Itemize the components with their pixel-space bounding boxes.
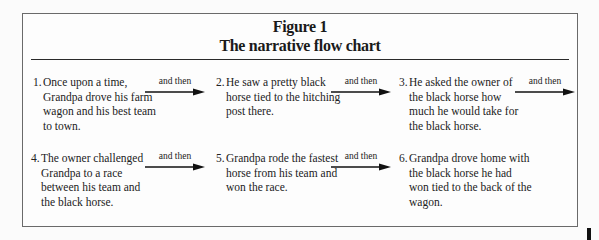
step-2: 2. He saw a pretty black horse tied to t… xyxy=(216,75,341,119)
step-3: 3. He asked the owner of the black horse… xyxy=(399,75,524,133)
title-divider xyxy=(31,59,569,60)
step-number: 6. xyxy=(399,151,408,166)
step-6: 6. Grandpa drove home with the black hor… xyxy=(399,151,534,209)
step-number: 5. xyxy=(216,151,225,166)
right-arrow-icon xyxy=(331,163,391,171)
step-number: 3. xyxy=(399,75,408,90)
right-arrow-icon xyxy=(331,88,391,96)
arrow-label: and then xyxy=(145,76,205,87)
figure-label: Figure 1 xyxy=(23,17,577,36)
right-arrow-icon xyxy=(145,163,205,171)
right-arrow-icon xyxy=(145,88,205,96)
page-edge-mark xyxy=(587,228,591,240)
arrow-1-to-2: and then xyxy=(145,76,205,98)
step-5: 5. Grandpa rode the fastest horse from h… xyxy=(216,151,341,195)
arrow-label: and then xyxy=(515,76,575,87)
step-4: 4. The owner challenged Grandpa to a rac… xyxy=(31,151,156,209)
step-number: 1. xyxy=(33,75,42,90)
step-text: He asked the owner of the black horse ho… xyxy=(399,75,524,133)
arrow-4-to-5: and then xyxy=(145,151,205,173)
right-arrow-icon xyxy=(515,88,575,96)
arrow-label: and then xyxy=(331,76,391,87)
step-text: He saw a pretty black horse tied to the … xyxy=(216,75,341,119)
arrow-3-to-4: and then xyxy=(515,76,575,98)
step-text: Grandpa drove home with the black horse … xyxy=(399,151,534,209)
arrow-label: and then xyxy=(145,151,205,162)
step-1: 1. Once upon a time, Grandpa drove his f… xyxy=(33,75,158,133)
step-text: The owner challenged Grandpa to a race b… xyxy=(31,151,156,209)
step-text: Once upon a time, Grandpa drove his farm… xyxy=(33,75,158,133)
arrow-5-to-6: and then xyxy=(331,151,391,173)
arrow-2-to-3: and then xyxy=(331,76,391,98)
figure-heading: Figure 1 The narrative flow chart xyxy=(23,17,577,55)
step-number: 4. xyxy=(31,151,40,166)
arrow-label: and then xyxy=(331,151,391,162)
figure-frame: Figure 1 The narrative flow chart 1. Onc… xyxy=(22,13,578,227)
step-text: Grandpa rode the fastest horse from his … xyxy=(216,151,341,195)
figure-title: The narrative flow chart xyxy=(23,36,577,55)
step-number: 2. xyxy=(216,75,225,90)
